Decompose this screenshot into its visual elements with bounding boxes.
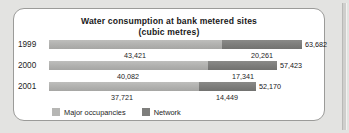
chart-subtitle: (cubic metres) — [14, 27, 324, 38]
bar-segment-major-1999[interactable] — [49, 40, 222, 49]
category-label-2001: 2001 — [18, 81, 48, 92]
bar-track-2000: 57,423 40,082 17,341 — [49, 61, 301, 70]
chart-row: 2000 57,423 40,082 17,341 — [14, 60, 326, 81]
chart-panel: Water consumption at bank metered sites … — [13, 8, 325, 121]
legend-label-major: Major occupancies — [64, 108, 126, 117]
bar-value-network-2001: 14,449 — [201, 93, 253, 102]
chart-title-block: Water consumption at bank metered sites … — [14, 16, 324, 37]
category-label-2000: 2000 — [18, 60, 48, 71]
legend-swatch-icon-network — [142, 108, 150, 116]
bar-segment-network-2000[interactable] — [208, 61, 277, 70]
page-title: Water consumption at bank metered sites — [14, 16, 324, 27]
bar-track-2001: 52,170 37,721 14,449 — [49, 82, 301, 91]
plot-area: 1999 63,682 43,421 20,261 2000 57,423 40… — [14, 39, 326, 101]
bar-total-label-1999: 63,682 — [305, 40, 327, 49]
legend-item-major-occupancies[interactable]: Major occupancies — [52, 108, 126, 117]
page-edge-rule — [342, 3, 347, 130]
bar-segment-major-2000[interactable] — [49, 61, 208, 70]
chart-row: 2001 52,170 37,721 14,449 — [14, 81, 326, 102]
legend-swatch-icon-major — [52, 108, 60, 116]
bar-segment-network-2001[interactable] — [199, 82, 257, 91]
chart-row: 1999 63,682 43,421 20,261 — [14, 39, 326, 60]
bar-value-major-2001: 37,721 — [96, 93, 148, 102]
bar-segment-network-1999[interactable] — [222, 40, 303, 49]
figure-root: Water consumption at bank metered sites … — [0, 0, 349, 133]
chart-legend: Major occupancies Network — [52, 106, 197, 118]
bar-value-network-1999: 20,261 — [236, 51, 288, 60]
category-label-1999: 1999 — [18, 39, 48, 50]
bar-value-major-1999: 43,421 — [109, 51, 161, 60]
legend-item-network[interactable]: Network — [142, 108, 181, 117]
bar-track-1999: 63,682 43,421 20,261 — [49, 40, 301, 49]
bar-total-label-2000: 57,423 — [280, 61, 302, 70]
legend-label-network: Network — [154, 108, 181, 117]
bar-value-major-2000: 40,082 — [102, 72, 154, 81]
bar-total-label-2001: 52,170 — [259, 82, 281, 91]
bar-value-network-2000: 17,341 — [217, 72, 269, 81]
bar-segment-major-2001[interactable] — [49, 82, 199, 91]
